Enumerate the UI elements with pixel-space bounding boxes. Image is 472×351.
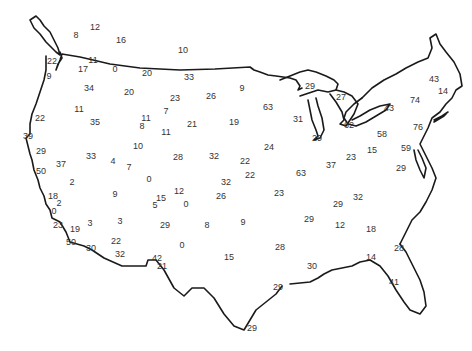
map-value-label: 11: [161, 128, 170, 137]
map-value-label: 32: [115, 250, 125, 259]
map-value-label: 21: [187, 120, 197, 129]
map-value-label: 9: [239, 84, 244, 93]
map-value-label: 41: [389, 278, 399, 287]
map-value-label: 15: [367, 146, 377, 155]
map-value-label: 22: [35, 114, 45, 123]
map-value-label: 11: [88, 56, 97, 65]
map-value-label: 0: [183, 200, 188, 209]
map-value-label: 12: [335, 221, 345, 230]
map-value-label: 58: [377, 130, 387, 139]
map-value-label: 23: [170, 94, 180, 103]
map-value-label: 31: [293, 115, 303, 124]
map-value-label: 30: [86, 244, 96, 253]
map-value-label: 43: [384, 104, 394, 113]
map-value-label: 12: [90, 23, 100, 32]
map-value-label: 2: [56, 199, 61, 208]
map-value-label: 33: [86, 152, 96, 161]
west-coast: [26, 56, 282, 330]
map-value-label: 21: [157, 262, 167, 271]
map-value-label: 17: [78, 65, 88, 74]
map-value-label: 8: [139, 122, 144, 131]
map-value-label: 28: [173, 153, 183, 162]
map-value-label: 22: [245, 171, 255, 180]
us-outline-map: [0, 0, 472, 351]
map-value-label: 27: [336, 93, 346, 102]
map-value-label: 12: [174, 187, 184, 196]
map-value-label: 11: [74, 105, 83, 114]
map-value-label: 37: [56, 160, 66, 169]
map-value-label: 26: [216, 192, 226, 201]
map-value-label: 24: [264, 143, 274, 152]
map-value-label: 9: [112, 190, 117, 199]
map-value-label: 33: [184, 73, 194, 82]
map-value-label: 0: [146, 175, 151, 184]
map-value-label: 29: [312, 134, 322, 143]
map-value-label: 0: [179, 241, 184, 250]
map-value-label: 29: [160, 221, 170, 230]
map-value-label: 19: [229, 118, 239, 127]
chesapeake-bay-outline: [414, 150, 426, 178]
map-value-label: 62: [344, 121, 354, 130]
map-value-label: 50: [66, 238, 76, 247]
map-value-label: 63: [296, 169, 306, 178]
map-value-label: 37: [326, 161, 336, 170]
map-value-label: 8: [73, 31, 78, 40]
map-value-label: 74: [410, 96, 420, 105]
map-value-label: 19: [70, 225, 80, 234]
map-value-label: 22: [111, 237, 121, 246]
map-value-label: 10: [133, 142, 143, 151]
map-value-label: 35: [90, 118, 100, 127]
map-value-label: 29: [247, 324, 257, 333]
map-value-label: 14: [438, 87, 448, 96]
map-value-label: 23: [274, 189, 284, 198]
map-value-label: 30: [307, 262, 317, 271]
map-value-label: 32: [221, 178, 231, 187]
map-value-label: 8: [204, 221, 209, 230]
map-value-label: 0: [112, 65, 117, 74]
map-value-label: 29: [304, 215, 314, 224]
map-value-label: 50: [36, 167, 46, 176]
map-value-label: 29: [396, 164, 406, 173]
map-value-label: 5: [152, 201, 157, 210]
map-value-label: 22: [240, 157, 250, 166]
map-value-label: 28: [394, 244, 404, 253]
map-value-label: 15: [224, 253, 234, 262]
map-value-label: 20: [124, 88, 134, 97]
map-value-label: 29: [305, 82, 315, 91]
map-value-label: 14: [366, 253, 376, 262]
long-island-outline: [434, 112, 448, 122]
map-value-label: 20: [142, 69, 152, 78]
map-value-label: 29: [333, 200, 343, 209]
map-value-label: 26: [206, 92, 216, 101]
east-coast: [362, 34, 462, 244]
map-value-label: 39: [23, 132, 33, 141]
map-value-label: 63: [263, 103, 273, 112]
map-value-label: 4: [110, 157, 115, 166]
map-value-label: 9: [46, 72, 51, 81]
map-value-label: 59: [401, 144, 411, 153]
map-value-label: 3: [117, 217, 122, 226]
map-value-label: 7: [163, 107, 168, 116]
map-value-label: 2: [69, 178, 74, 187]
map-value-label: 32: [353, 193, 363, 202]
map-value-label: 23: [53, 221, 63, 230]
map-value-label: 0: [51, 207, 56, 216]
map-value-label: 7: [126, 163, 131, 172]
map-value-label: 9: [240, 218, 245, 227]
map-value-label: 16: [116, 36, 126, 45]
map-value-label: 22: [47, 57, 57, 66]
map-value-label: 3: [87, 219, 92, 228]
map-value-label: 29: [36, 147, 46, 156]
vancouver-island-outline: [30, 16, 60, 55]
map-value-label: 43: [429, 75, 439, 84]
map-value-label: 28: [275, 243, 285, 252]
map-value-label: 76: [413, 123, 423, 132]
map-value-label: 10: [178, 46, 188, 55]
map-value-label: 23: [346, 153, 356, 162]
map-value-label: 34: [84, 84, 94, 93]
map-value-label: 29: [273, 283, 283, 292]
map-value-label: 18: [366, 225, 376, 234]
gulf-coast: [290, 244, 426, 314]
map-value-label: 32: [209, 152, 219, 161]
